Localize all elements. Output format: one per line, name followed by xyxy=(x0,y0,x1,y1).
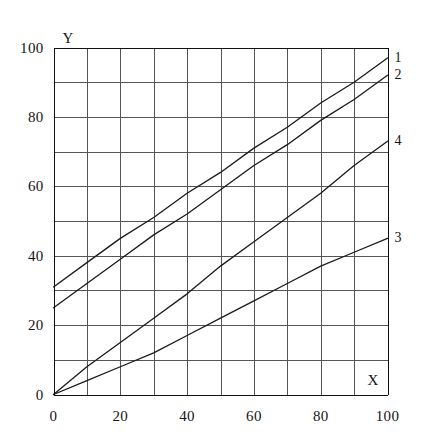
series-line-1 xyxy=(54,58,388,287)
y-tick-label: 100 xyxy=(20,41,43,56)
series-line-2 xyxy=(54,75,388,307)
series-label-1: 1 xyxy=(395,51,402,65)
x-tick-label: 100 xyxy=(358,409,418,424)
line-chart: 020406080100 020406080100 1243 Y X xyxy=(0,0,425,448)
series-line-4 xyxy=(54,141,388,394)
y-tick-label: 20 xyxy=(28,318,44,333)
series-lines xyxy=(54,58,388,395)
chart-canvas xyxy=(0,0,425,448)
x-tick-label: 60 xyxy=(224,409,284,424)
x-tick-label: 20 xyxy=(90,409,150,424)
y-tick-label: 80 xyxy=(28,110,44,125)
grid-lines xyxy=(54,48,389,396)
x-axis-label: X xyxy=(368,373,379,388)
y-tick-label: 60 xyxy=(28,179,44,194)
series-label-4: 4 xyxy=(395,134,402,148)
x-tick-label: 80 xyxy=(291,409,351,424)
series-line-3 xyxy=(54,238,388,394)
y-tick-label: 40 xyxy=(28,249,44,264)
series-label-2: 2 xyxy=(395,68,402,82)
x-tick-label: 40 xyxy=(157,409,217,424)
y-axis-label: Y xyxy=(63,31,74,46)
x-tick-label: 0 xyxy=(24,409,84,424)
series-label-3: 3 xyxy=(395,231,402,245)
y-tick-label: 0 xyxy=(36,388,44,403)
